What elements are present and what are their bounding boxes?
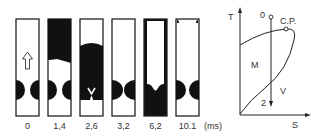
time-label-0: 0 (16, 121, 39, 131)
x-axis-arrow-icon (305, 113, 311, 117)
y-axis-arrow-icon (238, 7, 242, 13)
figure-graphics (0, 0, 318, 137)
region-vapor-label: V (280, 86, 286, 96)
time-label-3: 3,2 (108, 121, 139, 131)
time-label-4: 6,2 (140, 121, 171, 131)
tube-1 (48, 19, 71, 116)
time-label-5: 10.1 (172, 121, 203, 131)
ts-diagram (238, 7, 311, 117)
tube-3 (112, 19, 135, 116)
time-label-2: 2,6 (76, 121, 107, 131)
critical-point-label: C.P. (280, 16, 296, 26)
time-unit-label: (ms) (204, 121, 222, 131)
process-arrow-icon (269, 101, 273, 107)
region-mixed-label: M (251, 60, 259, 70)
y-axis-label: T (228, 12, 234, 22)
time-label-1: 1,4 (44, 121, 75, 131)
start-point-label: 0 (260, 10, 265, 20)
critical-point-marker (284, 27, 288, 31)
tube-5 (176, 19, 199, 116)
x-axis-label: S (292, 120, 298, 130)
tube-2 (80, 19, 103, 116)
tube-4 (144, 19, 167, 116)
tube-0 (16, 19, 39, 116)
start-point-marker (269, 15, 273, 19)
end-point-label: 2 (261, 98, 266, 108)
